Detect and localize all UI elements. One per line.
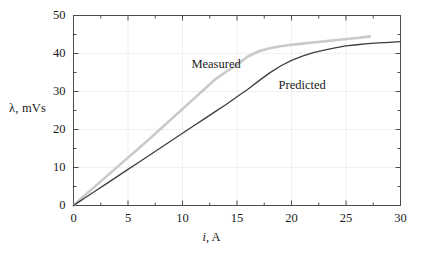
x-tick-label: 20 xyxy=(278,211,306,226)
x-tick-label: 5 xyxy=(114,211,142,226)
x-tick-label: 15 xyxy=(223,211,251,226)
x-axis-label-units: , A xyxy=(206,230,221,244)
x-axis-label: i, A xyxy=(0,230,423,245)
y-tick-label: 20 xyxy=(40,122,66,137)
x-tick-label: 10 xyxy=(169,211,197,226)
chart-figure: λ, mVs i, A 01020304050 051015202530 Mea… xyxy=(0,0,423,254)
y-axis-label: λ, mVs xyxy=(9,101,46,116)
gridlines xyxy=(74,16,401,206)
y-tick-label: 10 xyxy=(40,160,66,175)
series-label-predicted: Predicted xyxy=(279,78,326,93)
series-label-measured: Measured xyxy=(191,57,240,72)
x-tick-label: 25 xyxy=(332,211,360,226)
y-tick-label: 40 xyxy=(40,46,66,61)
x-tick-label: 30 xyxy=(387,211,415,226)
y-axis-label-text: λ, mVs xyxy=(9,101,46,115)
y-tick-label: 30 xyxy=(40,84,66,99)
x-tick-label: 0 xyxy=(60,211,88,226)
y-tick-label: 50 xyxy=(40,8,66,23)
